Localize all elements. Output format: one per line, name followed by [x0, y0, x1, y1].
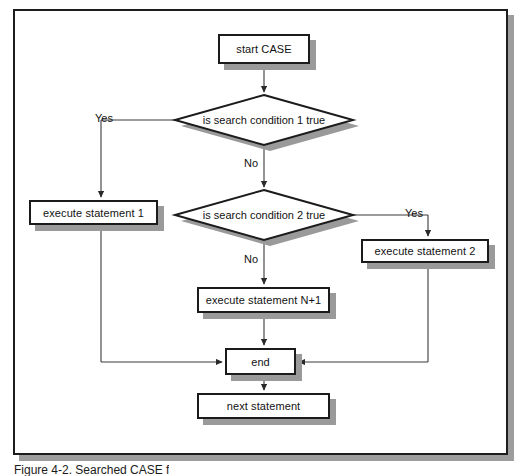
- condition-2-label: is search condition 2 true: [175, 190, 353, 240]
- edge-label-yes-right: Yes: [405, 207, 423, 219]
- figure-caption: Figure 4-2. Searched CASE f: [14, 463, 169, 476]
- edge-label-no-second: No: [244, 253, 258, 265]
- node-end[interactable]: end: [225, 348, 296, 375]
- node-execute-statement-n[interactable]: execute statement N+1: [197, 287, 330, 313]
- condition-1-label: is search condition 1 true: [175, 95, 353, 145]
- node-condition-2[interactable]: is search condition 2 true: [175, 190, 353, 240]
- edge-label-yes-left: Yes: [95, 112, 113, 124]
- node-execute-statement-2[interactable]: execute statement 2: [361, 239, 489, 263]
- node-condition-1[interactable]: is search condition 1 true: [175, 95, 353, 145]
- node-start-case[interactable]: start CASE: [218, 34, 310, 64]
- figure-page: start CASE is search condition 1 true Ye…: [0, 0, 522, 476]
- node-next-statement[interactable]: next statement: [197, 393, 330, 419]
- edge-label-no-first: No: [244, 157, 258, 169]
- node-execute-statement-1[interactable]: execute statement 1: [29, 200, 158, 225]
